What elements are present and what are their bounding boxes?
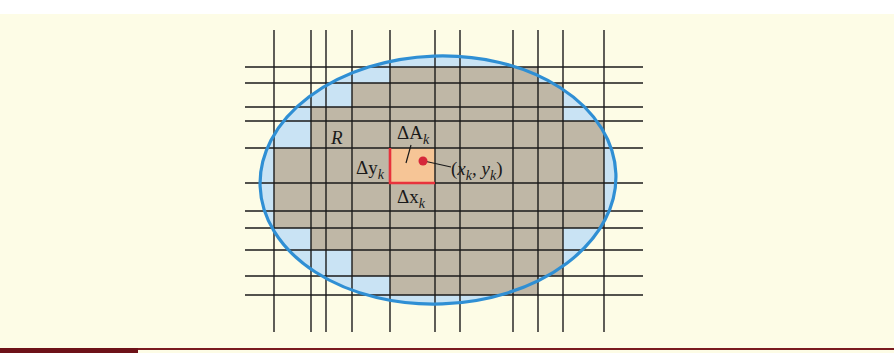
point-y: y [479, 158, 490, 179]
inner-rectangle-row-0 [390, 67, 538, 83]
inner-rectangle-row-6 [274, 211, 604, 228]
delta-y-main: Δy [356, 157, 378, 178]
delta-x-main: Δx [397, 186, 419, 207]
inner-rectangle-row-5 [274, 183, 604, 211]
sample-point-xk-yk [419, 157, 428, 166]
delta-y-sub: k [378, 167, 385, 182]
inner-rectangle-row-2 [311, 107, 563, 121]
inner-rectangle-row-4 [274, 148, 604, 183]
footer-tab [0, 348, 138, 353]
delta-x-sub: k [419, 196, 426, 211]
delta-a-sub: k [423, 132, 430, 147]
inner-rectangle-row-8 [352, 250, 563, 276]
paren-close: ) [496, 158, 502, 180]
inner-rectangle-row-9 [390, 276, 538, 295]
point-comma: , [472, 158, 482, 179]
region-partition-diagram: R ΔAk Δyk Δxk (xk, yk) [0, 0, 894, 353]
inner-rectangle-row-1 [352, 83, 563, 107]
region-label-r: R [330, 127, 343, 148]
highlighted-rectangle-delta-a-k [390, 148, 435, 183]
inner-rectangle-row-3 [311, 121, 604, 148]
delta-a-main: ΔA [397, 122, 423, 143]
inner-rectangle-row-7 [311, 228, 563, 250]
